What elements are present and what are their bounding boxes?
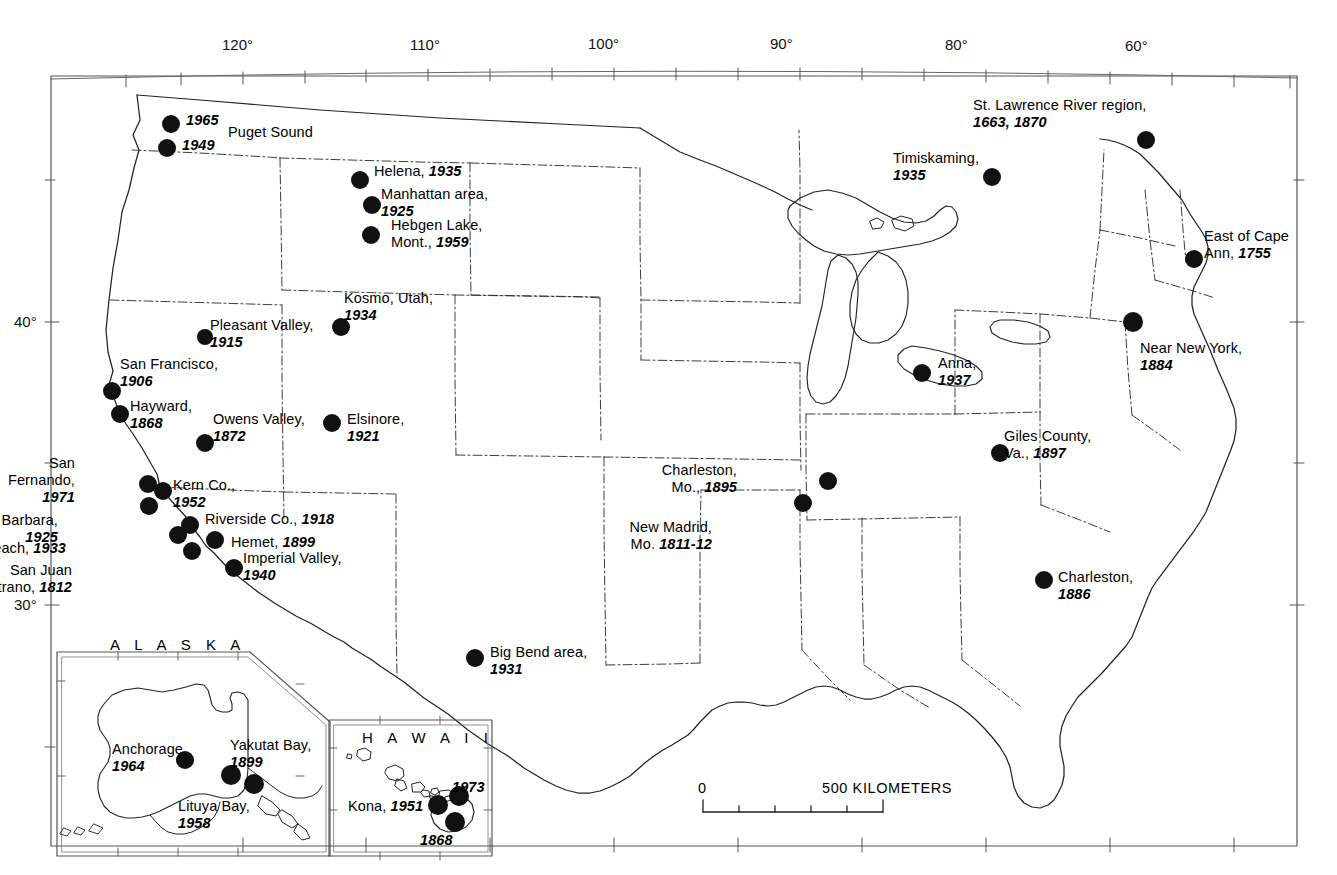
event-year: 1918 (302, 511, 335, 527)
event-label-hayward: Hayward,1868 (130, 398, 192, 432)
event-label-line: Yakutat Bay, (230, 737, 311, 754)
event-label-line: Anna, (938, 355, 976, 372)
event-label-line: Kern Co., (173, 477, 235, 494)
axis-label-lat-30: 30° (14, 596, 37, 613)
event-dot-charleston-mo[interactable] (819, 472, 837, 490)
event-label-san-juan-capistrano: San JuanCapistrano, 1812 (0, 562, 72, 596)
event-label-new-madrid: New Madrid,Mo. 1811-12 (630, 519, 713, 553)
event-label-line: Puget Sound (228, 124, 313, 141)
event-year: 1931 (490, 661, 523, 677)
event-year: 1934 (344, 307, 377, 323)
event-year: 1811-12 (659, 536, 712, 552)
event-dot-manhattan-area[interactable] (363, 196, 381, 214)
event-label-hawaii-1868: 1868 (420, 832, 453, 849)
event-label-line: Mo. 1811-12 (630, 536, 713, 553)
event-label-line: Hebgen Lake, (391, 217, 483, 234)
event-dot-near-new-york[interactable] (1123, 312, 1143, 332)
event-label-line: 1906 (120, 373, 218, 390)
event-label-line: Lituya Bay, (178, 798, 250, 815)
event-label-line: 1949 (182, 137, 215, 154)
axis-label-lon-60: 60° (1125, 37, 1148, 54)
event-label-line: 1899 (230, 754, 311, 771)
event-label-line: 1971 (8, 489, 75, 506)
event-dot-new-madrid[interactable] (794, 494, 812, 512)
event-label-anchorage: Anchorage,1964 (112, 741, 187, 775)
event-year: 1921 (347, 428, 380, 444)
scale-bar-zero-label: 0 (698, 780, 707, 796)
event-label-line: Mont., 1959 (391, 234, 483, 251)
axis-label-lon-110: 110° (410, 36, 440, 53)
event-label-line: Fernando, (8, 472, 75, 489)
event-dot-st-lawrence[interactable] (1137, 131, 1155, 149)
event-dot-helena[interactable] (351, 171, 369, 189)
event-label-line: Helena, 1935 (374, 163, 461, 180)
event-label-line: Big Bend area, (490, 644, 587, 661)
event-year: 1935 (429, 163, 462, 179)
event-label-elsinore: Elsinore,1921 (347, 411, 404, 445)
event-label-puget-sound: Puget Sound (228, 124, 313, 141)
event-label-line: 1952 (173, 494, 235, 511)
event-label-line: New Madrid, (630, 519, 713, 536)
event-dot-anna[interactable] (913, 364, 931, 382)
event-label-line: Santa Barbara, (0, 512, 58, 529)
event-dot-charleston-sc[interactable] (1035, 571, 1053, 589)
event-dot-owens-valley[interactable] (196, 434, 214, 452)
event-year: 1872 (213, 428, 246, 444)
event-year: 1937 (938, 372, 971, 388)
event-label-line: Riverside Co., 1918 (205, 511, 334, 528)
event-label-riverside-co: Riverside Co., 1918 (205, 511, 334, 528)
event-dot-hawaii-1868[interactable] (445, 812, 465, 832)
event-dot-santa-barbara[interactable] (140, 497, 158, 515)
event-label-line: Giles County, (1004, 428, 1091, 445)
event-dot-san-francisco[interactable] (103, 382, 121, 400)
event-label-near-new-york: Near New York,1884 (1140, 340, 1242, 374)
event-dot-timiskaming[interactable] (983, 168, 1001, 186)
event-dot-imperial-valley[interactable] (225, 559, 243, 577)
event-year: 1964 (112, 758, 145, 774)
event-dot-big-bend[interactable] (466, 649, 484, 667)
event-dot-kern-co[interactable] (154, 482, 172, 500)
event-year: 1906 (120, 373, 153, 389)
inset-label-hawaii: H A W A I I (362, 729, 493, 746)
event-label-line: Owens Valley, (213, 411, 305, 428)
event-year: 1868 (420, 832, 453, 848)
event-label-line: 1884 (1140, 357, 1242, 374)
event-year: 1915 (210, 334, 243, 350)
event-dot-puget-1949[interactable] (158, 139, 176, 157)
axis-label-lon-80: 80° (945, 36, 968, 53)
event-label-line: San Juan (0, 562, 72, 579)
event-label-line: Capistrano, 1812 (0, 579, 72, 596)
event-year: 1935 (893, 167, 926, 183)
event-label-line: 1935 (893, 167, 979, 184)
event-label-line: Imperial Valley, (243, 550, 342, 567)
event-dot-east-of-cape-ann[interactable] (1185, 250, 1203, 268)
event-year: 1884 (1140, 357, 1173, 373)
event-dot-hayward[interactable] (111, 405, 129, 423)
axis-label-lon-90: 90° (770, 35, 793, 52)
event-dot-elsinore[interactable] (323, 414, 341, 432)
event-label-line: 1663, 1870 (973, 114, 1146, 131)
event-label-line: Va., 1897 (1004, 445, 1091, 462)
event-label-line: 1931 (490, 661, 587, 678)
event-label-line: 1934 (344, 307, 433, 324)
event-dot-long-beach[interactable] (169, 526, 187, 544)
event-label-line: 1973 (452, 779, 485, 796)
event-dot-hebgen-lake[interactable] (362, 226, 380, 244)
event-label-line: Anchorage, (112, 741, 187, 758)
event-label-st-lawrence-river-region: St. Lawrence River region,1663, 1870 (973, 97, 1146, 131)
event-dot-lituya-bay[interactable] (244, 774, 264, 794)
event-label-line: Pleasant Valley, (210, 317, 313, 334)
event-label-line: Hayward, (130, 398, 192, 415)
event-label-line: 1965 (186, 112, 219, 129)
event-dot-hemet[interactable] (206, 531, 224, 549)
event-label-lituya-bay: Lituya Bay,1958 (178, 798, 250, 832)
event-label-charleston-sc: Charleston,1886 (1058, 569, 1133, 603)
event-label-line: 1937 (938, 372, 976, 389)
event-label-owens-valley: Owens Valley,1872 (213, 411, 305, 445)
event-label-line: Kona, 1951 (348, 798, 423, 815)
event-dot-kona[interactable] (428, 795, 448, 815)
event-label-hemet: Hemet, 1899 (231, 534, 315, 551)
event-dot-san-juan-capistrano[interactable] (183, 542, 201, 560)
event-label-giles-county-va: Giles County,Va., 1897 (1004, 428, 1091, 462)
event-dot-puget-1965[interactable] (162, 115, 180, 133)
